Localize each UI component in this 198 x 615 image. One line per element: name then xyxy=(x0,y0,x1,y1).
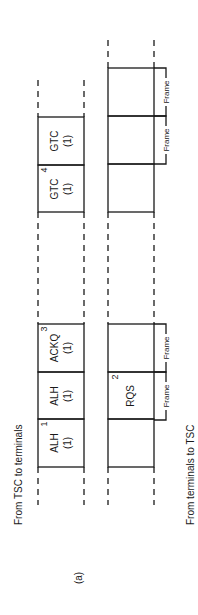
slot-index: 3 xyxy=(39,326,49,331)
slot-count: (1) xyxy=(62,390,73,402)
slot-count: (1) xyxy=(62,183,73,195)
slot-name: ALH xyxy=(49,386,60,405)
downlink-lane-label: From TSC to terminals xyxy=(13,425,24,525)
slot-count: (1) xyxy=(62,437,73,449)
downlink-slot-gtc-a xyxy=(38,117,84,165)
slot-name: ACKQ xyxy=(49,334,60,363)
frame-label: Frame xyxy=(162,128,171,152)
figure-caption: (a) xyxy=(73,572,84,584)
slot-index: 1 xyxy=(39,421,49,426)
uplink-lane-label: From terminals to TSC xyxy=(185,425,196,525)
slot-index: 2 xyxy=(110,374,120,379)
frame-label: Frame xyxy=(162,384,171,408)
slot-count: (1) xyxy=(62,342,73,354)
slot-index: 4 xyxy=(39,167,49,172)
slot-timing-diagram: Frame Frame Frame Frame GTC (1) GTC (1) … xyxy=(0,0,198,615)
slot-name: ALH xyxy=(49,433,60,452)
uplink-slot-4 xyxy=(108,324,154,372)
uplink-slot-6 xyxy=(108,419,154,467)
downlink-slot-alh xyxy=(38,372,84,419)
slot-name: GTC xyxy=(49,130,60,151)
uplink-slot-1 xyxy=(108,68,154,116)
frame-label: Frame xyxy=(162,80,171,104)
slot-name: GTC xyxy=(49,178,60,199)
frame-label: Frame xyxy=(162,336,171,360)
slot-count: (1) xyxy=(62,135,73,147)
uplink-slot-2 xyxy=(108,116,154,164)
slot-name: RQS xyxy=(125,385,136,407)
uplink-slot-3 xyxy=(108,164,154,212)
